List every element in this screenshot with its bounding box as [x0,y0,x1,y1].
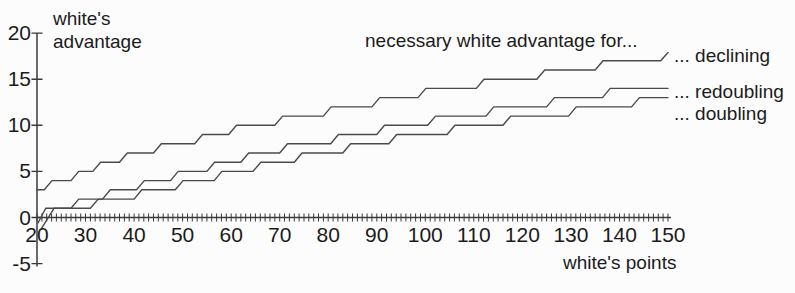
y-tick-label: 5 [0,160,31,182]
x-tick-label: 30 [61,224,111,246]
y-tick-label: 20 [0,22,31,44]
x-tick-label: 90 [352,224,402,246]
chart: white's advantage necessary white advant… [0,0,795,293]
x-tick-label: 120 [497,224,547,246]
chart-title: necessary white advantage for... [365,30,638,52]
x-tick-label: 70 [255,224,305,246]
x-tick-label: 50 [158,224,208,246]
x-tick-label: 40 [109,224,159,246]
legend-label-declining: ... declining [674,45,770,67]
x-tick-label: 140 [594,224,644,246]
x-tick-label: 110 [449,224,499,246]
y-axis-title-line2: advantage [53,31,142,52]
x-tick-label: 20 [12,224,62,246]
x-axis-title: white's points [563,252,676,274]
y-axis-title-line1: white's [53,8,110,29]
y-axis-title: white's advantage [53,7,142,53]
y-tick-label: 15 [0,68,31,90]
x-tick-label: 150 [643,224,693,246]
y-tick-label: -5 [0,253,31,275]
x-tick-label: 80 [303,224,353,246]
x-tick-label: 130 [546,224,596,246]
x-tick-label: 60 [206,224,256,246]
legend-label-redoubling: ... redoubling [674,81,784,103]
x-tick-label: 100 [400,224,450,246]
curve-declining [37,53,668,190]
legend-label-doubling: ... doubling [674,103,767,125]
curve-redoubling [38,88,668,223]
y-tick-label: 10 [0,114,31,136]
curve-doubling [41,98,668,229]
